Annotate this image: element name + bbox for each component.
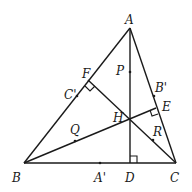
point-p	[129, 71, 132, 74]
label-q: Q	[70, 123, 80, 137]
label-b-prime: B'	[154, 81, 167, 95]
right-angle-e	[150, 110, 158, 116]
label-f: F	[81, 67, 91, 81]
point-b-prime	[153, 95, 156, 98]
right-angle-d	[130, 156, 137, 163]
label-p: P	[115, 64, 125, 78]
label-a: A	[124, 13, 134, 27]
altitude-be	[24, 108, 156, 163]
point-a-prime	[99, 162, 102, 165]
label-a-prime: A'	[93, 171, 106, 185]
right-angle-f	[85, 86, 95, 91]
label-b: B	[11, 171, 21, 185]
geometry-diagram: A B C D E F H P Q R A' B' C'	[0, 0, 192, 192]
label-r: R	[152, 125, 162, 139]
label-e: E	[161, 100, 171, 114]
label-c: C	[170, 171, 179, 185]
label-h: H	[112, 111, 124, 125]
point-q	[74, 140, 77, 143]
point-r	[152, 139, 155, 142]
label-d: D	[124, 171, 135, 185]
label-c-prime: C'	[64, 88, 76, 102]
